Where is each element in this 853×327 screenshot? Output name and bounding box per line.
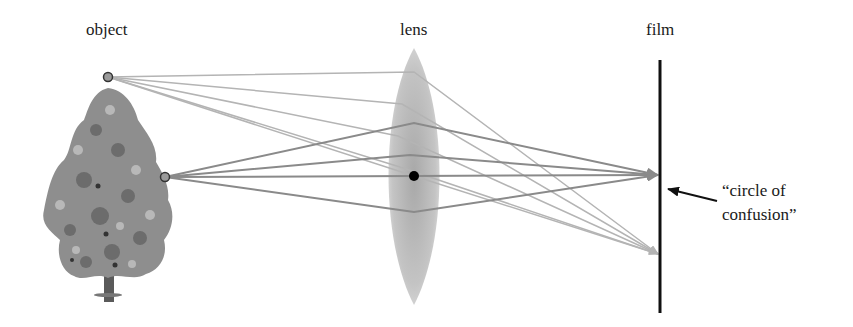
annotation-arrow [668,189,717,201]
optics-diagram [0,0,853,327]
rays-upper-point [108,72,658,254]
label-film: film [646,20,674,40]
object-point-top [104,73,113,82]
object-point-middle [161,173,170,182]
label-object: object [86,20,128,40]
label-lens: lens [400,20,427,40]
tree-icon [43,88,172,302]
annotation-line-1: “circle of [722,181,786,201]
diagram-canvas: object lens film “circle of confusion” [0,0,853,327]
annotation-line-2: confusion” [722,205,797,225]
lens-center-point [409,171,419,181]
